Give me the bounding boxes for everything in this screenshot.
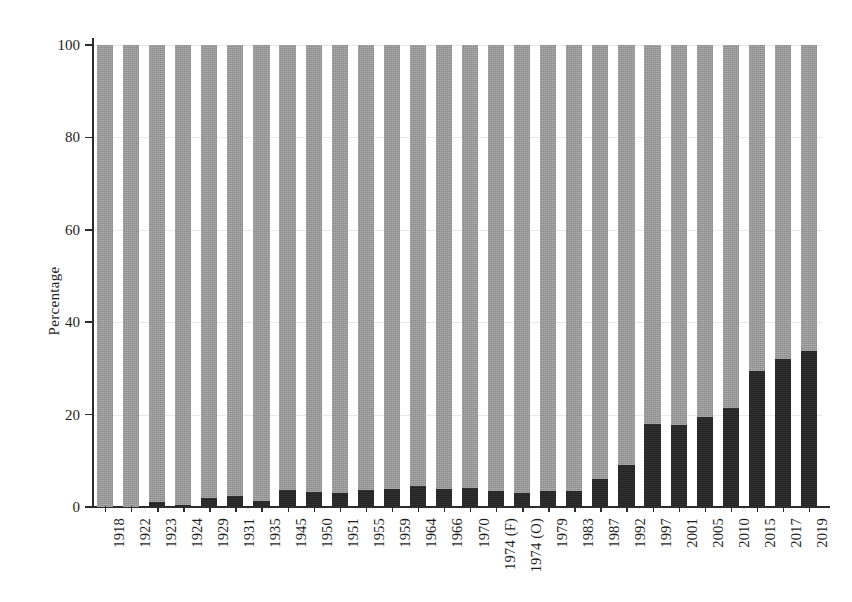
bar-column[interactable]: [723, 45, 739, 507]
x-tick-mark: [314, 506, 315, 512]
bar-segment-women: [332, 493, 348, 507]
bar-segment-men: [775, 45, 791, 359]
bar-segment-men: [97, 45, 113, 507]
bar-column[interactable]: [410, 45, 426, 507]
x-tick-mark: [496, 506, 497, 512]
bar-column[interactable]: [671, 45, 687, 507]
bar-segment-men: [592, 45, 608, 479]
bar-segment-men: [123, 45, 139, 507]
bar-segment-women: [488, 491, 504, 507]
x-tick-mark: [288, 506, 289, 512]
x-tick-mark: [235, 506, 236, 512]
bar-segment-men: [306, 45, 322, 492]
bar-segment-men: [149, 45, 165, 502]
bar-segment-men: [697, 45, 713, 417]
bar-column[interactable]: [175, 45, 191, 507]
x-tick-label: 1974 (O): [528, 518, 545, 572]
bar-segment-men: [488, 45, 504, 491]
bar-segment-women: [540, 491, 556, 507]
bar-column[interactable]: [97, 45, 113, 507]
bar-column[interactable]: [514, 45, 530, 507]
bar-column[interactable]: [540, 45, 556, 507]
bar-segment-men: [514, 45, 530, 493]
bar-column[interactable]: [279, 45, 295, 507]
x-tick-mark: [183, 506, 184, 512]
x-tick-label: 2015: [762, 518, 779, 548]
x-tick-label: 1997: [658, 518, 675, 548]
bar-segment-men: [279, 45, 295, 490]
bar-segment-women: [279, 490, 295, 507]
bar-segment-women: [723, 408, 739, 507]
y-tick-mark: [85, 321, 92, 323]
bar-column[interactable]: [488, 45, 504, 507]
bar-column[interactable]: [618, 45, 634, 507]
bar-segment-women: [592, 479, 608, 507]
bar-segment-men: [201, 45, 217, 498]
bar-segment-men: [540, 45, 556, 491]
bar-column[interactable]: [436, 45, 452, 507]
x-tick-mark: [131, 506, 132, 512]
x-tick-label: 1929: [215, 518, 232, 548]
bar-segment-women: [749, 371, 765, 507]
bar-segment-women: [358, 490, 374, 507]
x-tick-label: 1964: [423, 518, 440, 548]
bar-segment-women: [644, 424, 660, 507]
y-tick-label: 60: [40, 221, 80, 238]
x-tick-mark: [705, 506, 706, 512]
bar-segment-women: [410, 486, 426, 507]
bar-column[interactable]: [384, 45, 400, 507]
x-tick-label: 1951: [345, 518, 362, 548]
x-tick-label: 1970: [476, 518, 493, 548]
bar-segment-men: [253, 45, 269, 501]
bar-column[interactable]: [801, 45, 817, 507]
bar-segment-men: [723, 45, 739, 408]
bar-column[interactable]: [201, 45, 217, 507]
bar-column[interactable]: [358, 45, 374, 507]
bar-column[interactable]: [697, 45, 713, 507]
y-tick-mark: [85, 137, 92, 139]
x-tick-mark: [653, 506, 654, 512]
x-tick-label: 2005: [710, 518, 727, 548]
bar-column[interactable]: [462, 45, 478, 507]
x-tick-label: 1918: [111, 518, 128, 548]
bar-column[interactable]: [592, 45, 608, 507]
bar-segment-women: [566, 491, 582, 507]
bar-column[interactable]: [306, 45, 322, 507]
bar-segment-women: [462, 488, 478, 507]
bar-column[interactable]: [253, 45, 269, 507]
x-tick-mark: [679, 506, 680, 512]
bar-column[interactable]: [123, 45, 139, 507]
x-tick-mark: [574, 506, 575, 512]
bar-segment-men: [436, 45, 452, 489]
x-tick-label: 1924: [189, 518, 206, 548]
y-tick-label: 20: [40, 406, 80, 423]
x-tick-label: 2019: [814, 518, 831, 548]
x-tick-label: 1922: [137, 518, 154, 548]
bar-column[interactable]: [149, 45, 165, 507]
bar-column[interactable]: [566, 45, 582, 507]
bar-segment-women: [384, 489, 400, 507]
bar-segment-women: [801, 351, 817, 507]
bar-segment-women: [306, 492, 322, 507]
bar-segment-women: [436, 489, 452, 507]
x-tick-label: 1935: [267, 518, 284, 548]
bar-segment-women: [775, 359, 791, 507]
x-tick-label: 1979: [554, 518, 571, 548]
bar-column[interactable]: [749, 45, 765, 507]
bar-column[interactable]: [332, 45, 348, 507]
bar-column[interactable]: [775, 45, 791, 507]
bar-column[interactable]: [644, 45, 660, 507]
x-tick-mark: [522, 506, 523, 512]
x-tick-mark: [340, 506, 341, 512]
bar-segment-men: [384, 45, 400, 489]
bar-segment-men: [618, 45, 634, 465]
bar-segment-women: [618, 465, 634, 507]
x-tick-mark: [626, 506, 627, 512]
bar-column[interactable]: [227, 45, 243, 507]
x-tick-label: 1966: [449, 518, 466, 548]
x-tick-mark: [757, 506, 758, 512]
x-tick-label: 1945: [293, 518, 310, 548]
x-tick-mark: [392, 506, 393, 512]
bar-segment-men: [671, 45, 687, 425]
y-tick-label: 40: [40, 314, 80, 331]
